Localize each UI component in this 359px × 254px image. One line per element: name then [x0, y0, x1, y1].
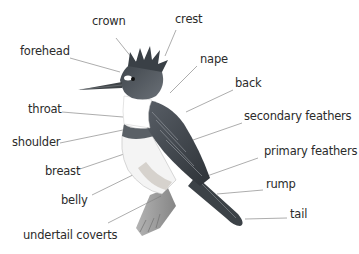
- label-nape: nape: [200, 54, 228, 66]
- collar: [123, 96, 152, 128]
- label-crest: crest: [175, 14, 202, 26]
- label-throat: throat: [28, 104, 62, 116]
- label-undertail-coverts: undertail coverts: [23, 230, 117, 242]
- label-crown: crown: [92, 16, 126, 28]
- label-breast: breast: [45, 166, 80, 178]
- label-secondary-feathers: secondary feathers: [244, 111, 351, 123]
- label-rump: rump: [266, 179, 296, 191]
- label-belly: belly: [61, 195, 88, 207]
- loral-spot: [124, 76, 132, 81]
- kingfisher-illustration: [78, 46, 243, 236]
- beak: [78, 82, 122, 90]
- label-shoulder: shoulder: [12, 137, 60, 149]
- label-primary-feathers: primary feathers: [264, 146, 357, 158]
- label-tail: tail: [290, 209, 307, 221]
- eye: [131, 77, 135, 81]
- tail: [188, 176, 243, 226]
- label-back: back: [235, 78, 262, 90]
- label-forehead: forehead: [20, 46, 70, 58]
